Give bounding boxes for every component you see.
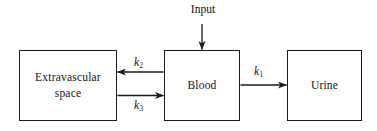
edge-label-k1-subscript: 1 (260, 71, 264, 79)
edge-label-k3-subscript: 3 (140, 105, 144, 113)
node-urine-label: Urine (307, 78, 342, 93)
node-extravascular-space-label-line2: space (55, 87, 82, 99)
edge-label-k2-subscript: 2 (140, 62, 144, 70)
node-blood: Blood (164, 50, 240, 121)
edge-label-k3-symbol: k (134, 99, 139, 111)
input-label-text: Input (191, 3, 215, 15)
edge-label-k3: k3 (134, 100, 143, 112)
edge-label-k2-symbol: k (134, 56, 139, 68)
compartment-model-diagram: Input Extravascular space Blood Urine k2… (0, 0, 377, 131)
edge-label-k2: k2 (134, 57, 143, 69)
input-label: Input (175, 3, 231, 16)
node-extravascular-space: Extravascular space (19, 50, 117, 121)
node-blood-label: Blood (183, 78, 220, 93)
node-extravascular-space-label: Extravascular space (31, 70, 105, 100)
node-urine: Urine (287, 50, 362, 121)
edge-label-k1: k1 (254, 66, 263, 78)
edge-label-k1-symbol: k (254, 65, 259, 77)
node-extravascular-space-label-line1: Extravascular (35, 71, 101, 83)
